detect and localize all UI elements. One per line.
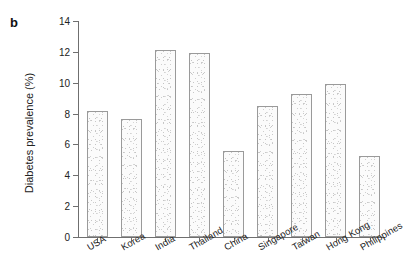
y-tick-label: 14 [59,16,70,27]
bar [257,106,278,237]
y-tick-mark [73,206,78,207]
bar [223,151,244,237]
y-tick-mark [73,114,78,115]
y-tick-mark [73,175,78,176]
y-tick-mark [73,83,78,84]
figure-panel-b: b Diabetes prevalence (%) 02468101214 US… [0,0,405,274]
panel-label: b [10,16,18,29]
y-tick-label: 4 [64,170,70,181]
y-tick-label: 8 [64,108,70,119]
y-tick-label: 0 [64,232,70,243]
y-axis-title: Diabetes prevalence (%) [23,43,35,223]
y-tick-mark [73,144,78,145]
y-tick-label: 10 [59,77,70,88]
bar [155,50,176,237]
bar [291,94,312,237]
y-tick-label: 6 [64,139,70,150]
bar [121,119,142,237]
y-tick-label: 12 [59,46,70,57]
y-tick-mark [73,52,78,53]
plot-area: 02468101214 [78,21,385,237]
bar [325,84,346,238]
bar [189,53,210,237]
y-tick-mark [73,237,78,238]
y-tick-mark [73,21,78,22]
y-axis-line [78,21,79,238]
y-tick-label: 2 [64,201,70,212]
bar [87,111,108,238]
